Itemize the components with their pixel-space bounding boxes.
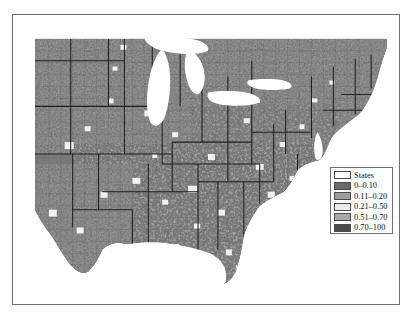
map-canvas (13, 15, 399, 304)
legend: States 0–0.10 0.11–0.20 0.21–0.50 0.51–0… (330, 167, 393, 234)
legend-row[interactable]: 0.11–0.20 (334, 191, 390, 201)
legend-swatch (334, 224, 351, 232)
legend-label: States (354, 171, 374, 180)
legend-row[interactable]: States (334, 170, 390, 180)
legend-label: 0.51–0.70 (354, 213, 388, 222)
legend-row[interactable]: 0–0.10 (334, 181, 390, 191)
legend-swatch (334, 203, 351, 211)
legend-row[interactable]: 0.21–0.50 (334, 202, 390, 212)
legend-swatch (334, 213, 351, 221)
legend-label: 0.21–0.50 (354, 202, 388, 211)
map-svg (13, 15, 399, 304)
legend-label: 0.11–0.20 (354, 192, 387, 201)
map-frame (12, 14, 400, 305)
legend-label: 0–0.10 (354, 181, 377, 190)
legend-row[interactable]: 0.51–0.70 (334, 212, 390, 222)
legend-row[interactable]: 0.70–100 (334, 223, 390, 233)
legend-label: 0.70–100 (354, 223, 385, 232)
figure-root: States 0–0.10 0.11–0.20 0.21–0.50 0.51–0… (0, 0, 412, 318)
legend-swatch (334, 192, 351, 200)
legend-swatch (334, 171, 351, 179)
legend-swatch (334, 182, 351, 190)
